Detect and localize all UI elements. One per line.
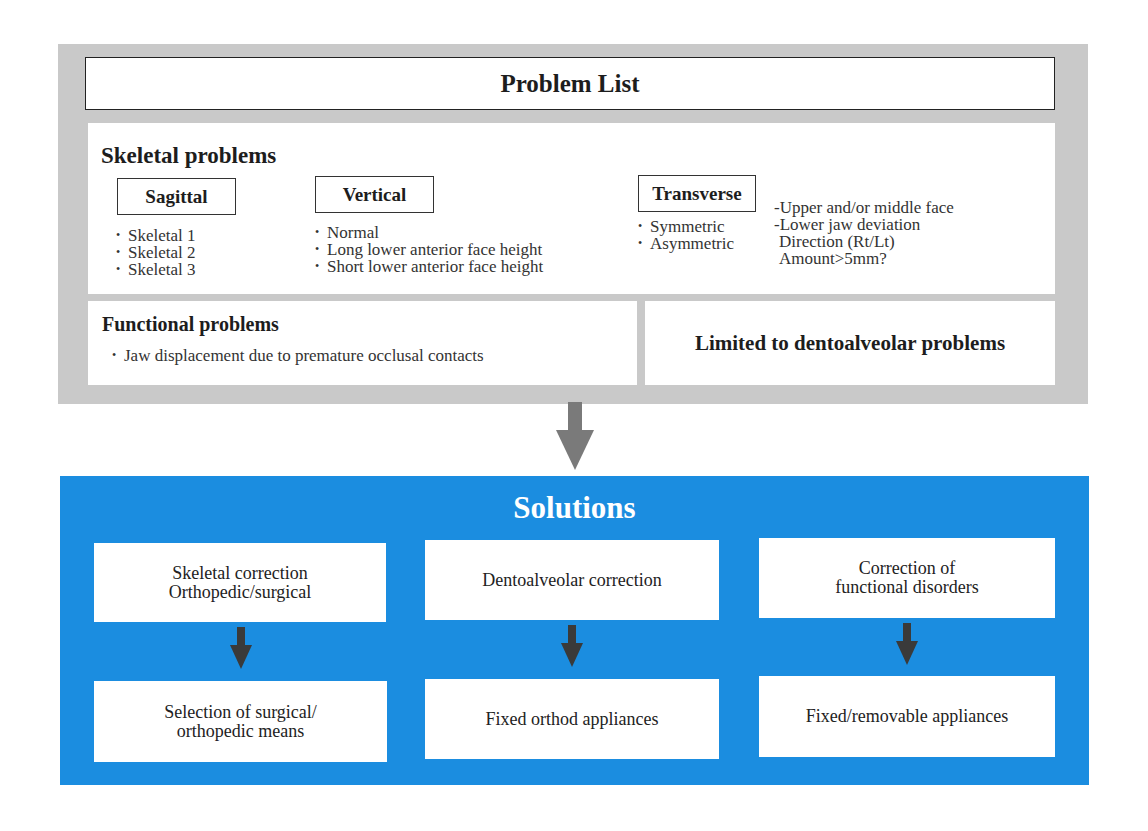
- transverse-notes: -Upper and/or middle face -Lower jaw dev…: [774, 199, 954, 267]
- solution-fixed-orthod-appliances: Fixed orthod appliances: [425, 679, 719, 759]
- solution-dentoalveolar-correction: Dentoalveolar correction: [425, 540, 719, 620]
- vertical-list: Normal Long lower anterior face height S…: [315, 224, 543, 275]
- skeletal-problems-heading: Skeletal problems: [101, 143, 276, 169]
- list-item: Skeletal 1: [116, 227, 196, 244]
- limited-dentoalveolar-section: Limited to dentoalveolar problems: [645, 301, 1055, 385]
- functional-problems-section: Functional problems Jaw displacement due…: [88, 301, 637, 385]
- solution-skeletal-correction: Skeletal correction Orthopedic/surgical: [94, 543, 386, 622]
- solution-fixed-removable-appliances: Fixed/removable appliances: [759, 676, 1055, 757]
- list-item: Normal: [315, 224, 543, 241]
- transverse-label: Transverse: [638, 175, 756, 212]
- down-arrow-icon: [553, 402, 597, 472]
- note-line: -Lower jaw deviation: [774, 216, 954, 233]
- solution-surgical-orthopedic-means: Selection of surgical/ orthopedic means: [94, 681, 387, 762]
- list-item: Short lower anterior face height: [315, 258, 543, 275]
- list-item: Long lower anterior face height: [315, 241, 543, 258]
- note-line: -Upper and/or middle face: [774, 199, 954, 216]
- solution-functional-correction: Correction of functional disorders: [759, 538, 1055, 618]
- solutions-title: Solutions: [60, 490, 1089, 526]
- list-item: Asymmetric: [638, 235, 734, 252]
- note-line: Amount>5mm?: [774, 250, 954, 267]
- functional-list: Jaw displacement due to premature occlus…: [112, 347, 484, 364]
- list-item: Skeletal 2: [116, 244, 196, 261]
- list-item: Skeletal 3: [116, 261, 196, 278]
- transverse-list: Symmetric Asymmetric: [638, 218, 734, 252]
- vertical-label: Vertical: [315, 176, 434, 213]
- sagittal-list: Skeletal 1 Skeletal 2 Skeletal 3: [116, 227, 196, 278]
- down-arrow-icon: [229, 627, 253, 671]
- list-item: Symmetric: [638, 218, 734, 235]
- problem-list-title: Problem List: [85, 57, 1055, 110]
- functional-problems-heading: Functional problems: [102, 313, 279, 336]
- note-line: Direction (Rt/Lt): [774, 233, 954, 250]
- down-arrow-icon: [560, 625, 584, 669]
- list-item: Jaw displacement due to premature occlus…: [112, 347, 484, 364]
- down-arrow-icon: [895, 623, 919, 667]
- sagittal-label: Sagittal: [117, 178, 236, 215]
- skeletal-problems-section: Skeletal problems Sagittal Skeletal 1 Sk…: [88, 123, 1055, 294]
